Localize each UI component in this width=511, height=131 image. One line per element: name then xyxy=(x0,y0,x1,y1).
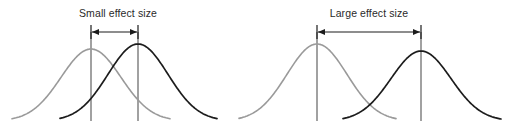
panel-title-small-effect: Small effect size xyxy=(79,7,157,19)
panel-large-effect: Large effect size xyxy=(239,7,501,121)
panel-small-effect: Small effect size xyxy=(12,7,217,121)
distribution-curve-large-effect-treatment xyxy=(343,51,501,119)
effect-size-figure: Small effect sizeLarge effect size xyxy=(0,0,511,131)
arrow-head-right-large-effect xyxy=(413,29,420,35)
effect-size-diagram: Small effect sizeLarge effect size xyxy=(0,0,511,131)
arrow-head-left-large-effect xyxy=(318,29,325,35)
arrow-head-right-small-effect xyxy=(130,29,137,35)
effect-size-arrow-small-effect xyxy=(91,25,138,39)
effect-size-arrow-large-effect xyxy=(317,25,421,39)
panel-title-large-effect: Large effect size xyxy=(330,7,409,19)
arrow-head-left-small-effect xyxy=(92,29,99,35)
